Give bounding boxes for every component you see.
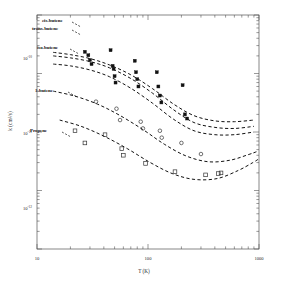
plot-frame: [37, 15, 259, 249]
data-point-open-circle: [160, 136, 164, 140]
data-point-open-square: [173, 170, 177, 174]
data-point-filled-square: [111, 64, 114, 67]
data-point-filled-square: [186, 117, 189, 120]
data-point-open-square: [144, 162, 148, 166]
data-point-open-circle: [118, 118, 122, 122]
data-point-open-square: [73, 129, 77, 133]
label-leader: [72, 30, 81, 35]
data-point-open-circle: [180, 141, 184, 145]
data-point-filled-square: [181, 84, 184, 87]
plot-canvas: [0, 0, 288, 284]
data-point-filled-square: [88, 59, 91, 62]
series-curve-trans-butene: [53, 56, 254, 129]
data-point-open-square: [83, 141, 87, 145]
data-point-filled-square: [135, 71, 138, 74]
data-point-open-circle: [158, 129, 162, 133]
data-point-filled-square: [158, 94, 161, 97]
series-curve-1-butene: [53, 91, 256, 162]
data-point-filled-square: [112, 67, 115, 70]
series-curve-cis-butene: [53, 52, 254, 121]
data-point-open-square: [120, 147, 124, 151]
label-leader: [72, 22, 81, 27]
data-point-filled-square: [160, 101, 163, 104]
label-leader: [68, 92, 77, 97]
data-point-filled-square: [90, 63, 93, 66]
data-point-open-circle: [115, 107, 119, 111]
data-point-open-circle: [94, 100, 98, 104]
figure: k (cm³/s) 10-10 10-11 10-12 10 100 1000 …: [0, 0, 288, 284]
data-point-open-square: [122, 153, 126, 157]
data-point-open-square: [204, 173, 208, 177]
data-point-open-circle: [139, 120, 143, 124]
data-point-filled-square: [114, 81, 117, 84]
data-point-filled-square: [113, 75, 116, 78]
data-point-filled-square: [183, 113, 186, 116]
data-point-filled-square: [137, 85, 140, 88]
data-point-filled-square: [109, 49, 112, 52]
data-point-filled-square: [136, 78, 139, 81]
data-point-filled-square: [87, 54, 90, 57]
data-point-filled-square: [83, 50, 86, 53]
series-curve-iso-butene: [53, 64, 254, 135]
label-leader: [62, 132, 71, 137]
data-point-filled-square: [155, 71, 158, 74]
data-point-open-circle: [199, 152, 203, 156]
data-point-filled-square: [157, 85, 160, 88]
label-leader: [70, 49, 79, 54]
data-point-filled-square: [133, 59, 136, 62]
